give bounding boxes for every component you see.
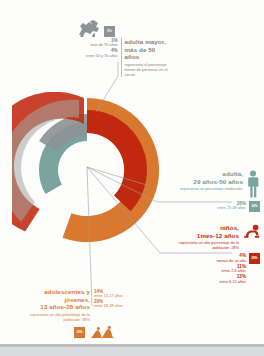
- ninos-top-row: niños, 1mes-12 años representa un alto p…: [160, 224, 260, 250]
- adulta-description: representa un porcentaje moderado.: [169, 186, 243, 191]
- adulta-mayor-title-2: más de 50 años: [125, 46, 168, 61]
- adolescentes-title-2: 13 años-28 años: [18, 303, 90, 311]
- elderly-person-icon: [76, 19, 102, 37]
- adolescentes-top-row: adolescentes y jóvenes, 13 años-28 años …: [18, 288, 136, 322]
- adulta-mayor-stat-1-label: entre 50 y 70 años: [76, 54, 118, 59]
- adulta-mayor-title: adulta mayor,: [125, 38, 168, 46]
- ninos-text: niños, 1mes-12 años representa un alto p…: [165, 224, 239, 250]
- ninos-stats-row: 4% menos de un año 11% entre 2-6 años 13…: [160, 253, 260, 284]
- callout-adolescentes: adolescentes y jóvenes, 13 años-28 años …: [18, 288, 136, 338]
- bottom-band: [0, 344, 264, 356]
- adolescentes-icon-row: 39%: [18, 326, 136, 338]
- adulta-mayor-stats: 1% más de 70 años 4% entre 50 y 70 años: [76, 38, 118, 77]
- adulta-stats-row: 28% entre 29-49 años 28%: [160, 201, 260, 212]
- adolescentes-description: representa un alto porcentaje de la pobl…: [18, 312, 90, 322]
- ninos-title: niños,: [165, 224, 239, 232]
- adulta-mayor-body: 1% más de 70 años 4% entre 50 y 70 años …: [76, 38, 168, 77]
- standing-adult-icon: [246, 170, 260, 198]
- running-youths-icon: [89, 326, 115, 338]
- adulta-mayor-icon-row: 5%: [76, 18, 168, 37]
- adolescentes-stats: 14% entre 13-17 años 29% entre 18-28 año…: [94, 288, 136, 322]
- ninos-badge: 28%: [249, 253, 260, 264]
- callout-ninos: niños, 1mes-12 años representa un alto p…: [160, 224, 260, 285]
- adulta-title-2: 29 años-50 años: [169, 178, 243, 186]
- callout-adulta-mayor: 5% 1% más de 70 años 4% entre 50 y 70 añ…: [76, 18, 168, 77]
- adulta-text: adulta, 29 años-50 años representa un po…: [169, 170, 243, 198]
- adulta-title: adulta,: [169, 170, 243, 178]
- adolescentes-title: adolescentes y jóvenes,: [18, 288, 90, 303]
- adolescentes-badge: 39%: [74, 327, 85, 338]
- crawling-baby-icon: [242, 224, 260, 250]
- adulta-stats: 28% entre 29-49 años: [172, 201, 246, 212]
- adolescentes-text: adolescentes y jóvenes, 13 años-28 años …: [18, 288, 90, 322]
- adulta-stat-0-label: entre 29-49 años: [172, 206, 246, 211]
- adulta-top-row: adulta, 29 años-50 años representa un po…: [160, 170, 260, 198]
- ninos-description: representa un alto porcentaje de la pobl…: [165, 240, 239, 250]
- ninos-stats: 4% menos de un año 11% entre 2-6 años 13…: [172, 253, 246, 284]
- adolescentes-stat-1-label: entre 18-28 años: [94, 304, 136, 309]
- adulta-mayor-description: representa el porcentaje menor de person…: [125, 62, 168, 77]
- ninos-stat-2-label: entre 6-12 años: [172, 280, 246, 285]
- infographic-page: 5% 1% más de 70 años 4% entre 50 y 70 añ…: [0, 0, 264, 356]
- population-donut-chart: [12, 92, 162, 242]
- callout-adulta: adulta, 29 años-50 años representa un po…: [160, 170, 260, 212]
- adulta-badge: 28%: [249, 201, 260, 212]
- adulta-mayor-badge: 5%: [104, 26, 115, 37]
- ninos-title-2: 1mes-12 años: [165, 232, 239, 240]
- adulta-mayor-text: adulta mayor, más de 50 años representa …: [121, 38, 168, 77]
